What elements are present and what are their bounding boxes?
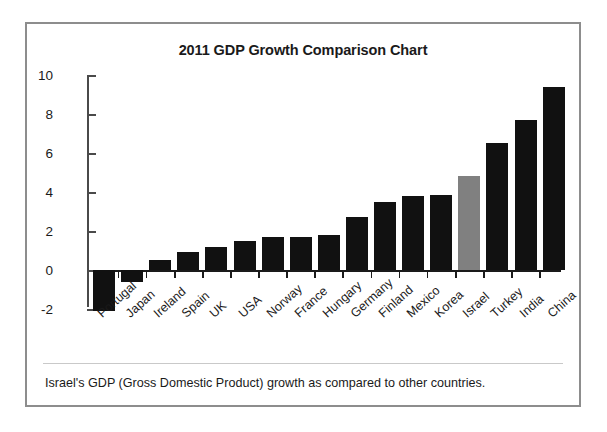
figure-caption: Israel's GDP (Gross Domestic Product) gr… — [45, 376, 561, 390]
bar-france — [290, 237, 312, 270]
y-tick-label: 4 — [13, 185, 53, 200]
bar-israel — [458, 176, 480, 270]
bar-finland — [374, 202, 396, 270]
y-tick-label: 0 — [13, 263, 53, 278]
x-tick-mark — [371, 270, 373, 278]
y-tick-label: 6 — [13, 146, 53, 161]
bar-germany — [346, 217, 368, 270]
bar-mexico — [402, 196, 424, 270]
bar-india — [515, 120, 537, 270]
y-tick-label: 8 — [13, 107, 53, 122]
x-tick-mark — [230, 270, 232, 278]
bar-japan — [121, 270, 143, 282]
x-tick-mark — [539, 270, 541, 278]
bar-china — [543, 87, 565, 270]
y-tick-mark — [87, 231, 96, 233]
y-tick-label: 2 — [13, 224, 53, 239]
x-tick-mark — [202, 270, 204, 278]
x-tick-mark — [146, 270, 148, 278]
y-tick-mark — [87, 192, 96, 194]
x-tick-mark — [455, 270, 457, 278]
caption-divider — [43, 363, 563, 364]
x-label-israel: Israel — [460, 290, 492, 321]
y-tick-label: 10 — [13, 68, 53, 83]
y-tick-mark — [87, 114, 96, 116]
bar-turkey — [486, 143, 508, 270]
y-axis-line — [87, 75, 89, 307]
y-tick-mark — [87, 153, 96, 155]
x-tick-mark — [511, 270, 513, 278]
plot-area: -20246810 PortugalJapanIrelandSpainUKUSA… — [59, 52, 559, 337]
bar-ireland — [149, 260, 171, 270]
bar-hungary — [318, 235, 340, 270]
x-tick-mark — [399, 270, 401, 278]
bar-uk — [205, 247, 227, 270]
x-tick-mark — [258, 270, 260, 278]
x-tick-mark — [174, 270, 176, 278]
x-label-usa: USA — [236, 293, 264, 321]
x-tick-mark — [286, 270, 288, 278]
x-tick-mark — [342, 270, 344, 278]
x-label-china: China — [545, 288, 579, 320]
bar-korea — [430, 195, 452, 270]
x-label-turkey: Turkey — [488, 285, 525, 321]
y-tick-label: -2 — [13, 302, 53, 317]
x-axis-baseline — [87, 270, 561, 272]
bar-norway — [262, 237, 284, 270]
x-tick-mark — [427, 270, 429, 278]
x-tick-mark — [483, 270, 485, 278]
x-tick-mark — [314, 270, 316, 278]
bar-usa — [234, 241, 256, 270]
x-tick-mark — [118, 270, 120, 278]
chart-figure: 2011 GDP Growth Comparison Chart -202468… — [25, 22, 581, 407]
x-label-uk: UK — [207, 298, 229, 320]
bar-spain — [177, 252, 199, 270]
y-tick-mark — [87, 75, 96, 77]
